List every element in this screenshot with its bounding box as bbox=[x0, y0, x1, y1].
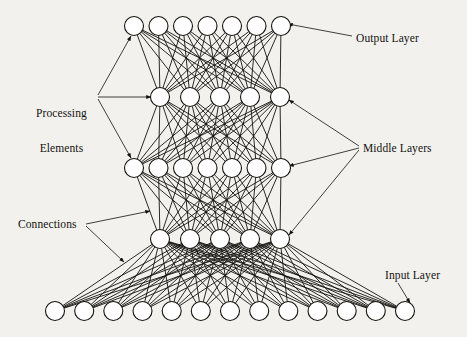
connection-edge bbox=[142, 102, 242, 163]
callout-leader-arrow bbox=[289, 100, 359, 146]
processing-element-node bbox=[250, 302, 269, 321]
connection-edge bbox=[254, 35, 277, 89]
processing-element-node bbox=[221, 302, 240, 321]
processing-element-node bbox=[181, 88, 200, 107]
label-processing-elements-line2: Elements bbox=[36, 143, 87, 155]
processing-element-node bbox=[271, 230, 290, 249]
connection-edge bbox=[237, 34, 274, 89]
connection-edge bbox=[63, 244, 152, 305]
processing-element-node bbox=[211, 88, 230, 107]
processing-element-node bbox=[191, 302, 210, 321]
connection-edge bbox=[237, 176, 274, 231]
processing-element-node bbox=[223, 17, 242, 36]
connection-edge bbox=[162, 106, 186, 160]
callout-leader-arrow bbox=[289, 150, 359, 235]
connection-edge bbox=[280, 178, 281, 230]
processing-element-node bbox=[198, 159, 217, 178]
processing-element-node bbox=[133, 302, 152, 321]
callout-leader-arrow bbox=[98, 99, 131, 158]
processing-element-node bbox=[174, 159, 193, 178]
connection-edge bbox=[226, 104, 275, 161]
label-processing-elements-line1: Processing bbox=[36, 108, 87, 120]
processing-element-node bbox=[75, 302, 94, 321]
connection-edge bbox=[165, 105, 202, 160]
processing-element-node bbox=[241, 230, 260, 249]
processing-element-node bbox=[104, 302, 123, 321]
processing-element-node bbox=[308, 302, 327, 321]
processing-element-node bbox=[396, 302, 415, 321]
connection-edge bbox=[122, 243, 271, 307]
processing-element-node bbox=[279, 302, 298, 321]
connection-edge bbox=[280, 36, 281, 88]
label-connections: Connections bbox=[18, 219, 77, 231]
callout-leader-arrow bbox=[86, 226, 124, 262]
connection-edge bbox=[226, 175, 275, 232]
processing-element-node bbox=[125, 159, 144, 178]
processing-element-node bbox=[271, 88, 290, 107]
processing-element-node bbox=[366, 302, 385, 321]
label-output-layer: Output Layer bbox=[356, 33, 419, 45]
callout-leader-arrow bbox=[288, 24, 352, 36]
connection-edge bbox=[159, 36, 160, 88]
processing-element-node bbox=[223, 159, 242, 178]
processing-element-node bbox=[149, 17, 168, 36]
connection-edge bbox=[226, 33, 275, 90]
processing-element-node bbox=[125, 17, 144, 36]
processing-element-node bbox=[151, 230, 170, 249]
callout-leader-arrow bbox=[86, 211, 150, 224]
connection-edge bbox=[64, 243, 212, 307]
processing-element-node bbox=[241, 88, 260, 107]
connection-edge bbox=[159, 178, 160, 230]
label-middle-layers: Middle Layers bbox=[363, 143, 432, 155]
processing-element-node bbox=[272, 159, 291, 178]
processing-element-node bbox=[162, 302, 181, 321]
neural-network-diagram: Output Layer Middle Layers Input Layer P… bbox=[0, 0, 467, 337]
processing-element-node bbox=[198, 17, 217, 36]
processing-element-node bbox=[181, 230, 200, 249]
connection-edge bbox=[93, 242, 271, 307]
connection-edge bbox=[165, 176, 202, 231]
label-input-layer: Input Layer bbox=[385, 270, 440, 282]
callout-leader-arrow bbox=[98, 36, 131, 95]
connection-edge bbox=[280, 107, 281, 159]
connection-edge bbox=[165, 34, 202, 89]
connection-edge bbox=[254, 177, 277, 231]
processing-element-node bbox=[337, 302, 356, 321]
processing-element-node bbox=[151, 88, 170, 107]
processing-element-node bbox=[211, 230, 230, 249]
processing-element-node bbox=[247, 17, 266, 36]
processing-element-node bbox=[149, 159, 168, 178]
processing-element-node bbox=[174, 17, 193, 36]
connection-edge bbox=[64, 242, 241, 307]
connection-edge bbox=[159, 107, 160, 159]
connection-edge bbox=[237, 105, 274, 160]
processing-element-nodes bbox=[46, 17, 415, 321]
callout-leader-arrow bbox=[398, 283, 410, 303]
processing-element-node bbox=[247, 159, 266, 178]
processing-element-node bbox=[272, 17, 291, 36]
connection-edge bbox=[288, 245, 369, 306]
processing-element-node bbox=[46, 302, 65, 321]
label-processing-elements: Processing Elements bbox=[36, 84, 87, 178]
